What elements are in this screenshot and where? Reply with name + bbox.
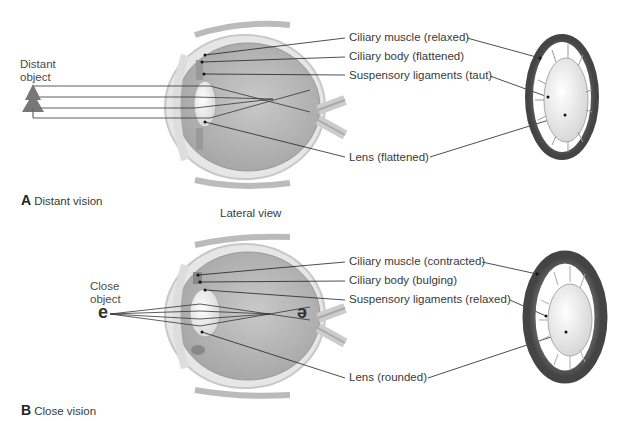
label-ciliary-body-flattened: Ciliary body (flattened) [349,50,464,63]
ciliary-ring-relaxed [529,38,595,156]
caption-text: Close vision [34,405,96,417]
caption-letter: B [21,402,31,418]
label-lens-rounded: Lens (rounded) [349,371,427,384]
caption-a: ADistant vision [21,192,103,208]
label-ciliary-muscle-relaxed: Ciliary muscle (relaxed) [349,31,469,44]
object-label-line2: object [20,71,56,84]
object-label-line1: Close [90,280,121,293]
view-label: Lateral view [220,207,281,219]
eye-accommodation-diagram [0,0,620,421]
retina-image-letter: e [297,303,307,324]
label-ciliary-body-bulging: Ciliary body (bulging) [349,274,457,287]
label-suspensory-ligaments-taut: Suspensory ligaments (taut) [349,69,492,82]
object-letter: e [98,302,108,323]
caption-b: BClose vision [21,402,96,418]
eye-close [110,237,566,396]
label-lens-flattened: Lens (flattened) [349,151,429,164]
object-label-line1: Distant [20,58,56,71]
ciliary-ring-contracted [529,257,601,377]
label-ciliary-muscle-contracted: Ciliary muscle (contracted) [349,255,485,268]
caption-letter: A [21,192,31,208]
label-suspensory-ligaments-relaxed: Suspensory ligaments (relaxed) [349,293,511,306]
distant-object-label: Distant object [20,58,56,84]
eye-distant [22,24,565,186]
caption-text: Distant vision [34,195,102,207]
